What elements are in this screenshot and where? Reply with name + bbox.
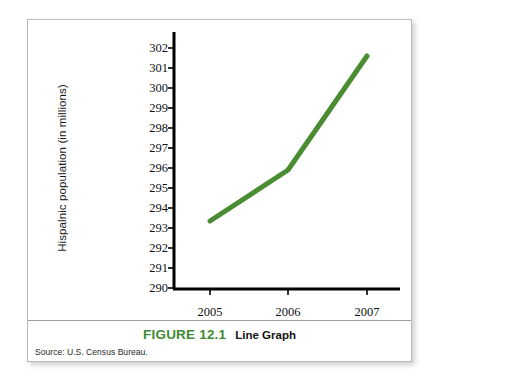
- line-chart-svg: [28, 20, 413, 320]
- figure-number-label: FIGURE 12.1: [143, 327, 226, 342]
- data-series-hispanic-population: [210, 56, 367, 221]
- figure-caption-band: FIGURE 12.1Line Graph Source: U.S. Censu…: [28, 320, 411, 362]
- source-note: Source: U.S. Census Bureau.: [35, 347, 148, 357]
- figure-title-label: Line Graph: [235, 329, 296, 341]
- chart-plot-area: Hispalnic population (in millions) 290 2…: [28, 20, 413, 320]
- figure-panel: Hispalnic population (in millions) 290 2…: [27, 19, 412, 362]
- figure-caption: FIGURE 12.1Line Graph: [28, 325, 411, 343]
